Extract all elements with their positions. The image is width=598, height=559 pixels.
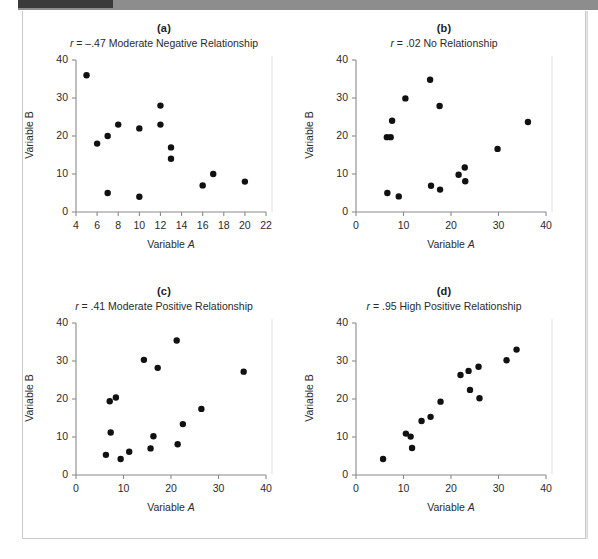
panel-c-y-axis-label: Variable B [23,353,35,443]
data-point [457,371,463,377]
panel-d-y-axis-label: Variable B [303,353,315,443]
data-point [427,77,433,83]
panel-a-axes-and-points [24,12,304,274]
data-point [210,171,216,177]
data-point [126,448,132,454]
data-point [117,455,123,461]
data-point [503,357,509,363]
data-point [387,134,393,140]
data-point [174,441,180,447]
panel-a-plot: 01020304046810121416182022Variable AVari… [24,12,304,275]
panel-d: (d) r = .95 High Positive Relationship 0… [304,275,584,538]
panel-b-y-axis-label: Variable B [303,90,315,180]
data-point [437,186,443,192]
panel-b-x-axis-label: Variable A [356,238,546,250]
data-point [240,368,246,374]
data-point [147,445,153,451]
data-point [428,183,434,189]
data-point [174,337,180,343]
data-point [141,356,147,362]
panel-d-axes-and-points [304,275,584,537]
data-point [389,118,395,124]
panel-b-axes-and-points [304,12,584,274]
data-point [462,164,468,170]
data-point [157,102,163,108]
scan-edge-shadow [585,11,588,539]
figure-page: (a) r = –.47 Moderate Negative Relations… [0,0,598,559]
data-point [396,193,402,199]
data-point [168,144,174,150]
data-point [157,121,163,127]
data-point [427,413,433,419]
data-point [525,119,531,125]
data-point [155,364,161,370]
data-point [168,156,174,162]
data-point [513,346,519,352]
data-point [465,367,471,373]
scan-top-band-dark-segment [18,0,113,8]
data-point [476,395,482,401]
panel-a: (a) r = –.47 Moderate Negative Relations… [24,12,304,275]
panel-c: (c) r = .41 Moderate Positive Relationsh… [24,275,304,538]
scatterplot-panel-grid: (a) r = –.47 Moderate Negative Relations… [24,12,584,537]
panel-c-x-axis-label: Variable A [76,501,266,513]
data-point [113,394,119,400]
data-point [384,190,390,196]
data-point [94,140,100,146]
data-point [462,178,468,184]
data-point [475,363,481,369]
data-point [83,72,89,78]
data-point [150,433,156,439]
data-point [437,398,443,404]
data-point [407,433,413,439]
panel-c-plot: 010203040010203040Variable AVariable B [24,275,304,538]
panel-b-plot: 010203040010203040Variable AVariable B [304,12,584,275]
data-point [467,386,473,392]
data-point [418,417,424,423]
data-point [436,103,442,109]
data-point [107,429,113,435]
panel-b: (b) r = .02 No Relationship 010203040010… [304,12,584,275]
data-point [494,146,500,152]
data-point [242,178,248,184]
data-point [115,121,121,127]
data-point [380,455,386,461]
data-point [136,194,142,200]
data-point [136,125,142,131]
panel-d-x-axis-label: Variable A [356,501,546,513]
data-point [402,95,408,101]
data-point [107,398,113,404]
panel-a-x-axis-label: Variable A [76,238,266,250]
panel-c-axes-and-points [24,275,304,537]
data-point [180,420,186,426]
panel-d-plot: 010203040010203040Variable AVariable B [304,275,584,538]
data-point [104,133,110,139]
data-point [198,405,204,411]
data-point [199,182,205,188]
data-point [103,451,109,457]
data-point [409,444,415,450]
data-point [104,190,110,196]
data-point [455,172,461,178]
panel-a-y-axis-label: Variable B [23,90,35,180]
